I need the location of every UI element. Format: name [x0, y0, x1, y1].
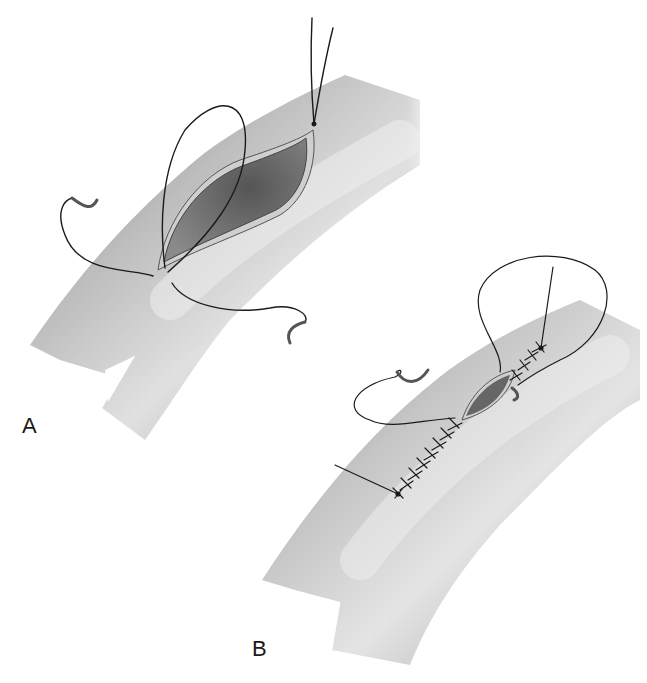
panel-a-vessel [30, 60, 440, 440]
needle-right-a-icon [288, 322, 305, 343]
illustration [0, 0, 647, 683]
panel-label-b: B [252, 638, 267, 660]
needle-left-b-icon [397, 370, 428, 382]
knot-top [312, 122, 316, 126]
panel-label-a: A [22, 415, 37, 437]
needle-left-a-icon [72, 198, 97, 207]
panel-b-vessel [262, 300, 640, 665]
figure-canvas: A B [0, 0, 647, 683]
